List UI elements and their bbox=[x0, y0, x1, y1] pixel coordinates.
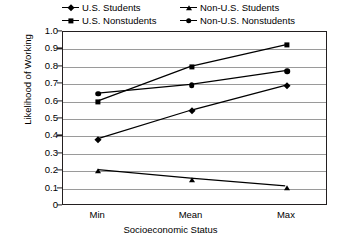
data-point-triangle bbox=[95, 168, 101, 173]
legend-item-non-us-students: Non-U.S. Students bbox=[180, 3, 334, 13]
data-point-triangle bbox=[284, 185, 290, 190]
data-point-circle bbox=[189, 82, 195, 88]
x-axis-tick-label: Max bbox=[277, 209, 295, 220]
square-marker-icon bbox=[62, 16, 79, 25]
legend-item-non-us-nonstudents: Non-U.S. Nonstudents bbox=[180, 16, 334, 26]
data-point-triangle bbox=[189, 177, 195, 182]
y-axis-tick-label: 0.4 bbox=[32, 131, 58, 141]
triangle-marker-icon bbox=[180, 3, 197, 12]
legend-item-us-students: U.S. Students bbox=[62, 3, 180, 13]
legend-label: Non-U.S. Students bbox=[200, 3, 279, 13]
plot-area bbox=[62, 31, 327, 205]
data-point-square bbox=[284, 42, 289, 47]
data-point-circle bbox=[95, 91, 101, 97]
legend-label: Non-U.S. Nonstudents bbox=[200, 16, 295, 26]
y-axis-tick-label: 0.9 bbox=[32, 44, 58, 54]
y-axis-tick-label: 0.1 bbox=[32, 183, 58, 193]
y-axis-tick-label: 0.7 bbox=[32, 78, 58, 88]
y-axis-tick-label: 0 bbox=[32, 200, 58, 210]
legend-item-us-nonstudents: U.S. Nonstudents bbox=[62, 16, 180, 26]
x-axis-tick-label: Min bbox=[90, 209, 105, 220]
data-point-square bbox=[96, 99, 101, 104]
data-point-circle bbox=[284, 68, 290, 74]
chart-container: U.S. Students Non-U.S. Students U.S. Non… bbox=[0, 0, 341, 242]
y-axis-tick-label: 1.0 bbox=[32, 26, 58, 36]
y-axis-tick-label: 0.3 bbox=[32, 148, 58, 158]
diamond-marker-icon bbox=[62, 3, 79, 12]
circle-marker-icon bbox=[180, 16, 197, 25]
y-axis-tick-label: 0.8 bbox=[32, 61, 58, 71]
x-axis-title: Socioeconomic Status bbox=[0, 224, 341, 235]
legend-label: U.S. Students bbox=[82, 3, 141, 13]
chart-legend: U.S. Students Non-U.S. Students U.S. Non… bbox=[62, 1, 334, 28]
y-axis-tick-label: 0.6 bbox=[32, 96, 58, 106]
data-point-square bbox=[189, 64, 194, 69]
y-axis-tick-label: 0.2 bbox=[32, 165, 58, 175]
y-axis-tick-label: 0.5 bbox=[32, 113, 58, 123]
legend-label: U.S. Nonstudents bbox=[82, 16, 156, 26]
y-axis-tick-labels: 1.00.90.80.70.60.50.40.30.20.10 bbox=[28, 31, 58, 205]
y-axis-title: Likelihood of Working bbox=[22, 5, 33, 155]
x-axis-tick-label: Mean bbox=[179, 209, 203, 220]
